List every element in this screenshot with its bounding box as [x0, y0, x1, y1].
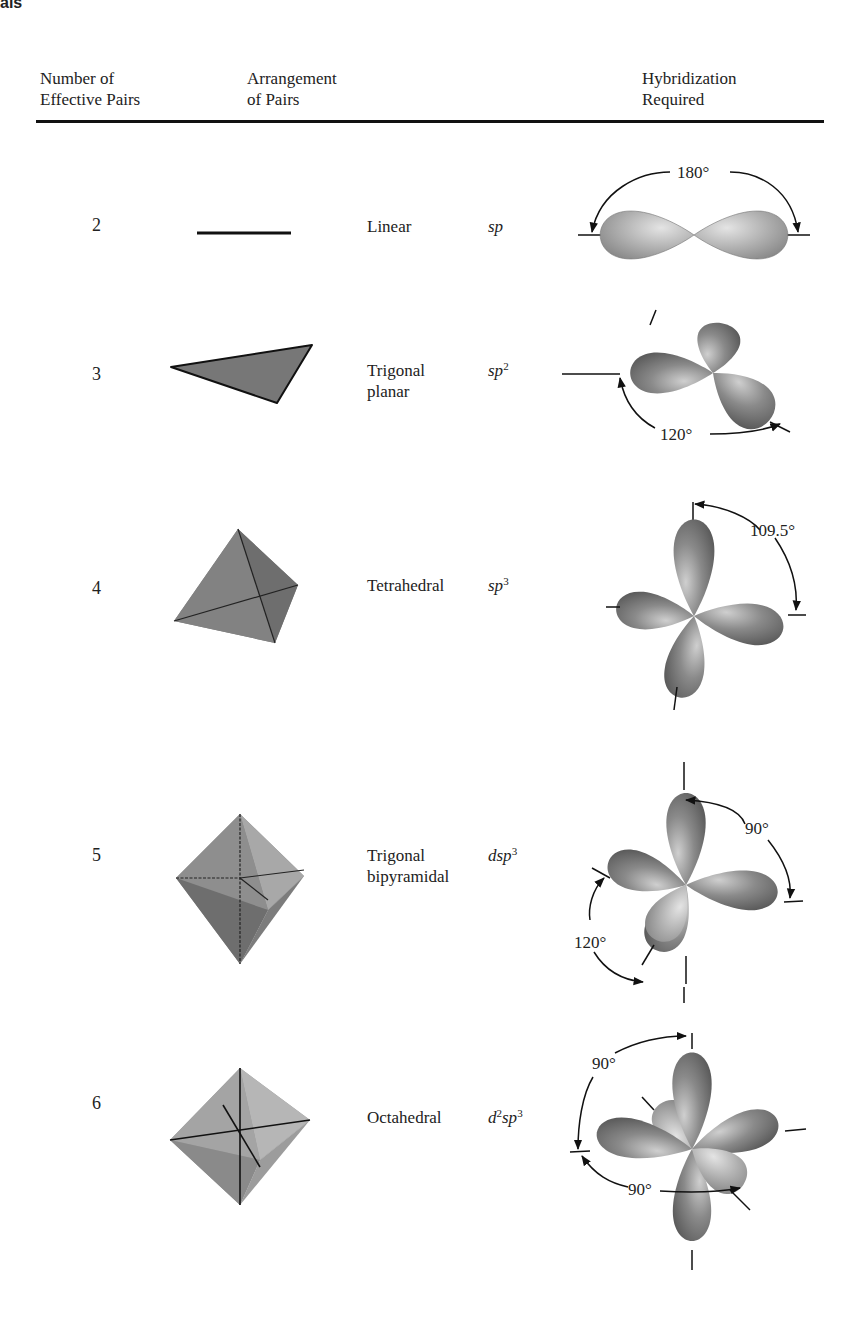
hybrid-sp: sp	[497, 846, 512, 865]
angle-label: 90°	[628, 1180, 652, 1199]
arrangement-line1: Trigonal	[367, 845, 449, 866]
header-number-line1: Number of	[40, 68, 140, 89]
arrangement-label: Octahedral	[367, 1107, 442, 1128]
hybrid-sp: sp	[488, 217, 503, 236]
hybridization-label: dsp3	[488, 845, 517, 866]
angle-label: 90°	[745, 819, 769, 838]
row-number: 6	[92, 1093, 101, 1114]
row-number: 2	[92, 215, 101, 236]
sp3-orbital-diagram-icon: 109.5°	[600, 500, 820, 715]
hybrid-p-sup: 2	[503, 360, 509, 372]
trigonal-bipyramid-icon	[172, 812, 312, 972]
header-hybridization-line1: Hybridization	[642, 68, 736, 89]
hybrid-d: d	[488, 1108, 497, 1127]
angle-label: 109.5°	[750, 521, 795, 540]
row-number: 4	[92, 578, 101, 599]
row-number: 5	[92, 845, 101, 866]
dsp3-orbital-diagram-icon: 90° 120°	[560, 760, 820, 985]
header-rule	[36, 120, 824, 123]
angle-label: 90°	[592, 1054, 616, 1073]
arrangement-line2: planar	[367, 381, 425, 402]
sp2-orbital-diagram-icon: 120°	[570, 310, 820, 460]
arrangement-label: Linear	[367, 216, 411, 237]
header-arrangement-line2: of Pairs	[247, 89, 337, 110]
hybrid-p-sup: 3	[503, 575, 509, 587]
hybrid-sp: sp	[502, 1108, 517, 1127]
arrangement-label: Trigonal planar	[367, 360, 425, 402]
triangle-icon	[165, 340, 325, 410]
row-number: 3	[92, 364, 101, 385]
angle-label: 180°	[677, 163, 709, 182]
header-number: Number of Effective Pairs	[40, 68, 140, 110]
hybrid-sp: sp	[488, 361, 503, 380]
line-segment-icon	[195, 228, 295, 238]
hybridization-label: sp3	[488, 575, 509, 596]
d2sp3-orbital-diagram-icon: 90° 90°	[560, 985, 820, 1275]
sp-orbital-diagram-icon: 180°	[570, 150, 820, 260]
header-hybridization-line2: Required	[642, 89, 736, 110]
arrangement-label: Tetrahedral	[367, 575, 444, 596]
hybrid-p-sup: 3	[517, 1107, 523, 1119]
arrangement-label: Trigonal bipyramidal	[367, 845, 449, 887]
tetrahedron-icon	[170, 525, 310, 650]
header-number-line2: Effective Pairs	[40, 89, 140, 110]
page-corner-label: als	[0, 0, 22, 12]
angle-label: 120°	[574, 933, 606, 952]
arrangement-line1: Tetrahedral	[367, 575, 444, 596]
arrangement-line1: Trigonal	[367, 360, 425, 381]
header-arrangement: Arrangement of Pairs	[247, 68, 337, 110]
header-hybridization: Hybridization Required	[642, 68, 736, 110]
arrangement-line1: Octahedral	[367, 1107, 442, 1128]
hybridization-label: sp	[488, 216, 503, 237]
arrangement-line1: Linear	[367, 216, 411, 237]
angle-label: 120°	[660, 425, 692, 444]
hybridization-label: sp2	[488, 360, 509, 381]
hybrid-sp: sp	[488, 576, 503, 595]
hybrid-d: d	[488, 846, 497, 865]
hybridization-label: d2sp3	[488, 1107, 523, 1128]
hybrid-p-sup: 3	[512, 845, 518, 857]
octahedron-icon	[165, 1065, 315, 1210]
arrangement-line2: bipyramidal	[367, 866, 449, 887]
header-arrangement-line1: Arrangement	[247, 68, 337, 89]
